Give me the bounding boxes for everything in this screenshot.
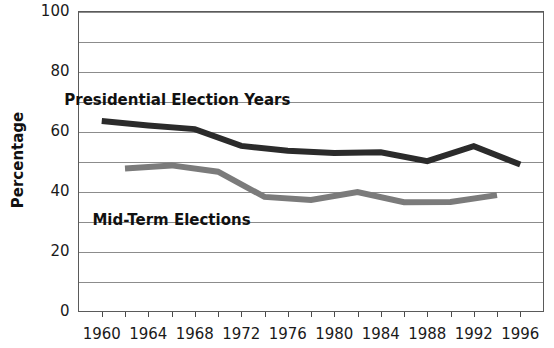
- x-tick-label: 1980: [315, 325, 353, 343]
- x-tick-label: 1960: [83, 325, 121, 343]
- series-label: Presidential Election Years: [64, 91, 290, 109]
- x-tick-label: 1964: [129, 325, 167, 343]
- y-tick-label: 0: [60, 302, 70, 320]
- y-tick-label: 20: [50, 242, 69, 260]
- y-tick-label: 60: [50, 122, 69, 140]
- x-tick-label: 1976: [269, 325, 307, 343]
- x-tick-label: 1996: [501, 325, 539, 343]
- x-tick-label: 1972: [222, 325, 260, 343]
- series-label: Mid-Term Elections: [92, 211, 250, 229]
- y-axis-title: Percentage: [9, 112, 27, 209]
- chart-container: 020406080100 196019641968197219761980198…: [0, 0, 554, 348]
- y-tick-label: 40: [50, 182, 69, 200]
- y-tick-label: 100: [41, 2, 70, 20]
- x-tick-label: 1984: [362, 325, 400, 343]
- y-tick-label: 80: [50, 62, 69, 80]
- x-tick-label: 1988: [408, 325, 446, 343]
- x-tick-label: 1968: [176, 325, 214, 343]
- chart-background: [0, 0, 554, 348]
- x-tick-label: 1992: [455, 325, 493, 343]
- election-turnout-line-chart: 020406080100 196019641968197219761980198…: [0, 0, 554, 348]
